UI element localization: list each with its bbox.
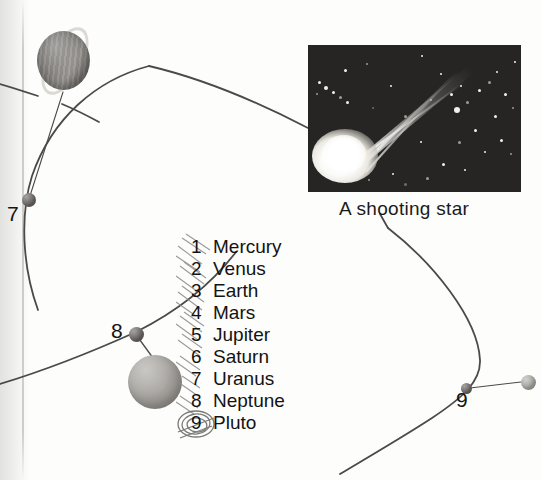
- star-speck: [510, 153, 512, 155]
- star-speck: [488, 81, 491, 84]
- key-planet-name: Venus: [208, 258, 266, 280]
- diagram-label-pluto: 9: [456, 389, 468, 410]
- key-planet-name: Pluto: [208, 412, 256, 434]
- star-speck: [346, 101, 349, 104]
- key-number: 2: [191, 258, 208, 280]
- list-item: 1 Mercury: [191, 236, 285, 258]
- orbit-arc-saturn-right: [62, 104, 99, 122]
- star-speck: [484, 151, 486, 153]
- star-speck: [458, 141, 461, 144]
- shooting-star-photo-frame: [308, 45, 521, 192]
- key-planet-name: Earth: [208, 280, 258, 302]
- star-speck: [474, 129, 477, 132]
- diagram-label-neptune: 8: [111, 320, 123, 341]
- star-speck: [316, 93, 318, 95]
- star-speck: [500, 139, 503, 142]
- list-item: 4 Mars: [191, 302, 285, 324]
- key-number: 3: [191, 280, 208, 302]
- star-speck: [426, 177, 429, 180]
- photo-caption: A shooting star: [339, 198, 469, 220]
- orbit-arc-uranus-upper: [149, 66, 308, 128]
- star-speck: [442, 163, 445, 166]
- orbit-arc-pluto: [340, 228, 480, 474]
- key-number: 5: [191, 324, 208, 346]
- star-speck: [332, 91, 335, 94]
- key-planet-name: Neptune: [208, 390, 285, 412]
- star-speck: [478, 89, 481, 92]
- key-number: 8: [191, 390, 208, 412]
- key-planet-name: Mercury: [208, 236, 282, 258]
- key-number: 6: [191, 346, 208, 368]
- key-planet-name: Uranus: [208, 368, 274, 390]
- key-planet-name: Saturn: [208, 346, 269, 368]
- star-speck: [318, 81, 321, 84]
- list-item: 7 Uranus: [191, 368, 285, 390]
- key-planet-name: Jupiter: [208, 324, 270, 346]
- key-planet-name: Mars: [208, 302, 255, 324]
- star-speck: [514, 61, 516, 63]
- planet-key-list: 1 Mercury 2 Venus 3 Earth 4 Mars 5 Jupit…: [191, 236, 285, 434]
- list-item: 6 Saturn: [191, 346, 285, 368]
- orbit-marker-neptune: [129, 327, 144, 342]
- star-speck: [404, 183, 407, 186]
- star-speck: [368, 179, 370, 181]
- star-speck: [366, 63, 368, 65]
- list-item: 5 Jupiter: [191, 324, 285, 346]
- orbit-arc-uranus: [24, 66, 149, 310]
- star-speck: [421, 55, 423, 57]
- orbit-arc-saturn-left: [0, 84, 38, 96]
- shooting-star-photo: [308, 45, 521, 192]
- star-bright: [454, 107, 460, 113]
- key-number: 4: [191, 302, 208, 324]
- leader-line-saturn: [29, 92, 63, 199]
- list-item: 8 Neptune: [191, 390, 285, 412]
- key-number: 7: [191, 368, 208, 390]
- list-item: 2 Venus: [191, 258, 285, 280]
- star-speck: [339, 96, 342, 99]
- star-speck: [420, 141, 422, 143]
- diagram-label-uranus: 7: [7, 203, 19, 224]
- planet-neptune: [128, 355, 182, 409]
- star-speck: [440, 73, 442, 75]
- list-item: 3 Earth: [191, 280, 285, 302]
- meteor-head-core: [322, 135, 366, 173]
- star-speck: [504, 93, 507, 96]
- star-speck: [372, 107, 374, 109]
- star-speck: [512, 107, 514, 109]
- star-speck: [464, 169, 466, 171]
- planet-pluto: [521, 375, 536, 390]
- star-speck: [496, 71, 498, 73]
- star-speck: [466, 101, 469, 104]
- star-speck: [494, 115, 497, 118]
- key-number: 9: [191, 412, 208, 434]
- key-number: 1: [191, 236, 208, 258]
- star-speck: [344, 69, 347, 72]
- star-speck: [390, 85, 392, 87]
- list-item: 9 Pluto: [191, 412, 285, 434]
- leader-line-pluto: [470, 382, 521, 388]
- star-speck: [392, 173, 394, 175]
- solar-system-diagram-page: 7 8 9: [0, 0, 541, 480]
- planet-saturn: [37, 31, 90, 90]
- star-speck: [324, 86, 328, 90]
- orbit-marker-uranus: [22, 193, 36, 207]
